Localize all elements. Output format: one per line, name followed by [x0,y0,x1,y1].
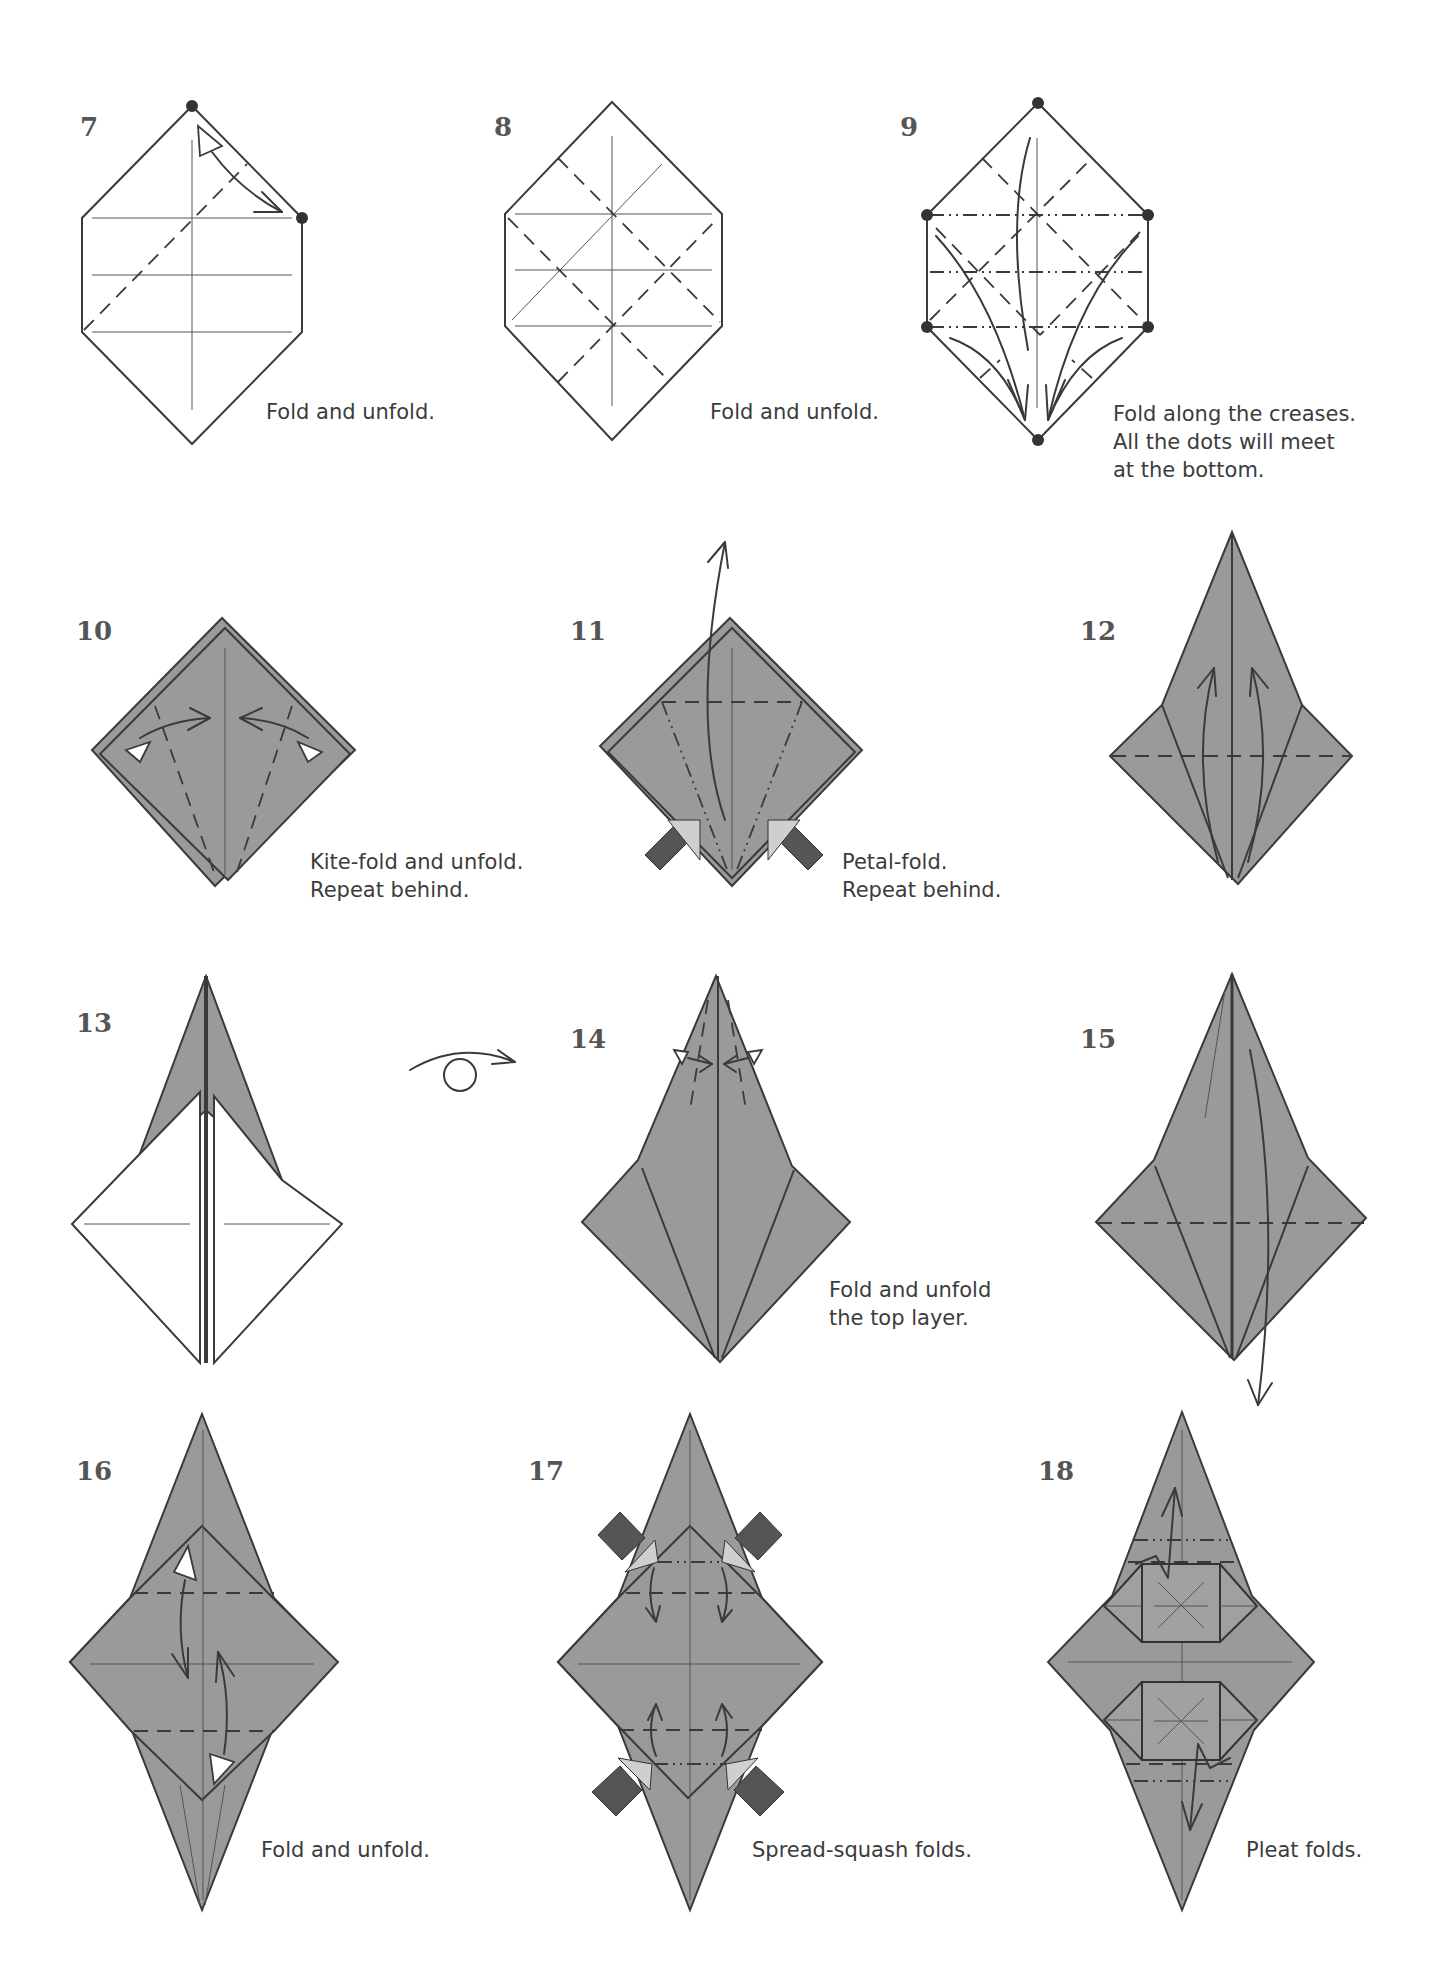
step-10-diagram [0,520,560,940]
reference-dot-icon [921,321,933,333]
step-7: 7 Fold and unfold. [0,0,480,480]
reference-dot-icon [1142,209,1154,221]
step-12: 12 [1050,500,1449,920]
step-14-diagram [550,960,1050,1380]
step-17: 17 Spread-squash folds. [500,1400,1000,1940]
step-10: 10 Kite-fold and unfold. Repeat behind. [0,520,560,940]
step-11: 11 Petal-fold. Repeat behind. [550,520,1050,940]
step-caption: Fold and unfold. [261,1836,430,1864]
step-14: 14 Fold and unfold the top layer. [550,960,1050,1380]
step-caption: the top layer. [829,1304,969,1332]
step-18: 18 Pleat folds. [1000,1400,1449,1940]
step-caption: Kite-fold and unfold. [310,848,523,876]
step-caption: Pleat folds. [1246,1836,1362,1864]
reference-dot-icon [1032,434,1044,446]
reference-dot-icon [296,212,308,224]
step-16: 16 Fold and unfold. Fold and unfold. [0,1400,500,1940]
reference-dot-icon [1032,97,1044,109]
push-arrow-icon [645,820,700,870]
step-15: 15 [1050,960,1449,1380]
turn-over-icon [0,940,560,1380]
step-caption: Repeat behind. [310,876,469,904]
step-caption: Repeat behind. [842,876,1001,904]
step-12-diagram [1050,500,1449,920]
step-caption: Fold and unfold. [710,398,879,426]
step-caption: Fold and unfold. [266,398,435,426]
step-8: 8 Fold and unfold. [480,0,900,480]
step-caption: Fold and unfold [829,1276,991,1304]
step-18-diagram [1000,1400,1449,1940]
reference-dot-icon [921,209,933,221]
step-caption: Petal-fold. [842,848,947,876]
step-caption: Spread-squash folds. [752,1836,972,1864]
step-caption: All the dots will meet [1113,428,1335,456]
push-arrow-icon [768,820,823,870]
step-13: 13 [0,940,560,1380]
step-15-diagram [1050,960,1449,1380]
reference-dot-icon [186,100,198,112]
step-9: 9 Fold along the creases. All the dots w… [900,0,1449,500]
step-caption: at the bottom. [1113,456,1265,484]
step-caption: Fold along the creases. [1113,400,1356,428]
reference-dot-icon [1142,321,1154,333]
